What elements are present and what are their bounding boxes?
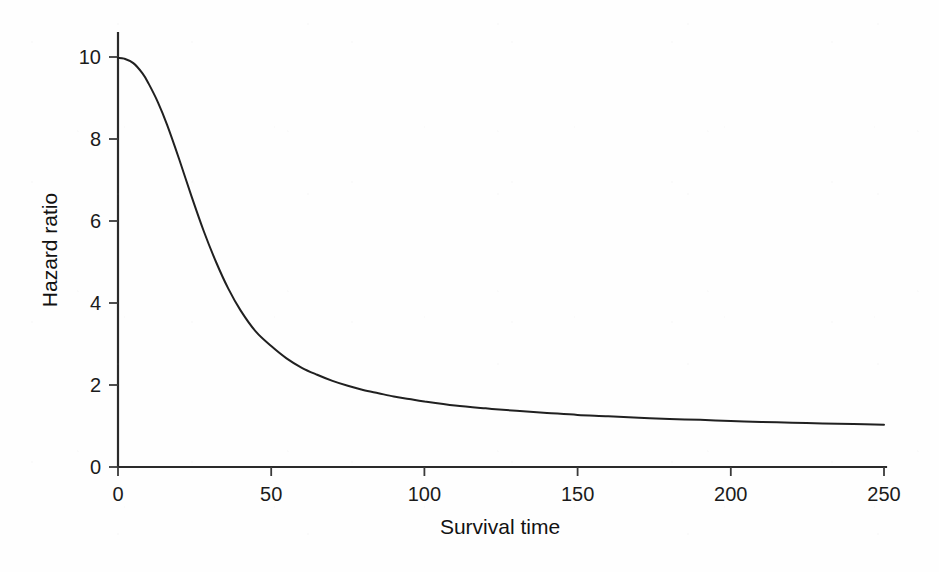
figure-container: 0246810 050100150200250 Hazard ratio Sur…	[0, 0, 939, 572]
x-axis-tick-labels: 050100150200250	[112, 483, 900, 505]
y-tick-label: 4	[90, 292, 101, 314]
y-tick-label: 2	[90, 374, 101, 396]
axes-group	[118, 33, 886, 467]
x-axis-ticks	[118, 467, 884, 476]
x-tick-label: 150	[561, 483, 594, 505]
y-tick-label: 10	[79, 46, 101, 68]
y-axis-ticks	[109, 57, 118, 467]
y-tick-label: 6	[90, 210, 101, 232]
x-tick-label: 200	[714, 483, 747, 505]
y-axis-tick-labels: 0246810	[79, 46, 101, 478]
y-axis-title: Hazard ratio	[38, 193, 61, 307]
hazard-ratio-curve	[118, 58, 884, 425]
x-tick-label: 100	[408, 483, 441, 505]
chart-canvas: 0246810 050100150200250 Hazard ratio Sur…	[0, 0, 939, 572]
x-tick-label: 50	[260, 483, 282, 505]
x-tick-label: 250	[867, 483, 900, 505]
x-tick-label: 0	[112, 483, 123, 505]
y-tick-label: 0	[90, 456, 101, 478]
x-axis-title: Survival time	[440, 515, 560, 538]
y-tick-label: 8	[90, 128, 101, 150]
